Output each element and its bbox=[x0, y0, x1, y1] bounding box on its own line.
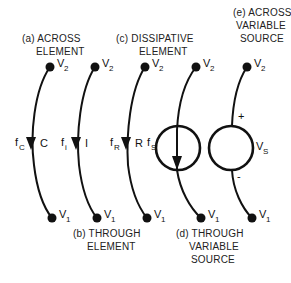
caption-a-line2: ELEMENT bbox=[36, 46, 85, 57]
caption-d-line1: (d) THROUGH bbox=[176, 228, 244, 239]
source-label-vs-sub: S bbox=[263, 147, 268, 156]
arrow-down-icon bbox=[71, 137, 81, 150]
element-e-across-source: (e) ACROSS VARIABLE SOURCE V 2 V 1 + - V… bbox=[209, 7, 291, 224]
minus-sign: - bbox=[237, 170, 241, 182]
arrow-down-icon bbox=[26, 137, 36, 150]
node-v1-a bbox=[48, 214, 57, 223]
plus-sign: + bbox=[238, 110, 244, 122]
caption-b-line2: ELEMENT bbox=[87, 241, 136, 252]
caption-d-line3: SOURCE bbox=[191, 254, 235, 265]
across-source-circle bbox=[209, 126, 253, 170]
element-label-i: I bbox=[85, 137, 88, 149]
arrow-down-icon bbox=[121, 137, 131, 150]
element-e-edge-bottom bbox=[232, 170, 252, 218]
caption-d-line2: VARIABLE bbox=[189, 241, 239, 252]
node-v2-c bbox=[141, 63, 150, 72]
node-v2-c-sub: 2 bbox=[159, 64, 164, 73]
flow-label-a-sub: C bbox=[19, 143, 25, 152]
node-v2-d-sub: 2 bbox=[210, 64, 215, 73]
node-v2-a-sub: 2 bbox=[64, 64, 69, 73]
caption-b-line1: (b) THROUGH bbox=[73, 228, 141, 239]
flow-label-b-sub: i bbox=[65, 143, 67, 152]
node-v2-e-sub: 2 bbox=[261, 64, 266, 73]
node-v1-c bbox=[143, 214, 152, 223]
caption-e-line2: VARIABLE bbox=[236, 20, 286, 31]
caption-e-line1: (e) ACROSS bbox=[233, 7, 291, 18]
caption-a-line1: (a) ACROSS bbox=[22, 33, 81, 44]
element-d-through-source: (d) THROUGH VARIABLE SOURCE V 2 V 1 f S bbox=[147, 57, 244, 265]
caption-c-line2: ELEMENT bbox=[139, 46, 188, 57]
element-a-across: (a) ACROSS ELEMENT V 2 V 1 f C C bbox=[15, 33, 85, 224]
node-v1-b-sub: 1 bbox=[111, 215, 116, 224]
element-label-c: C bbox=[40, 137, 48, 149]
arrow-down-icon bbox=[172, 156, 182, 170]
node-v1-c-sub: 1 bbox=[161, 215, 166, 224]
node-v1-b bbox=[93, 214, 102, 223]
node-v1-a-sub: 1 bbox=[66, 215, 71, 224]
node-v2-b-sub: 2 bbox=[109, 64, 114, 73]
node-v1-d bbox=[197, 214, 206, 223]
node-v2-d bbox=[192, 63, 201, 72]
node-v2-b bbox=[91, 63, 100, 72]
element-b-through: (b) THROUGH ELEMENT V 2 V 1 f i I bbox=[61, 57, 141, 252]
node-v1-d-sub: 1 bbox=[215, 215, 220, 224]
caption-e-line3: SOURCE bbox=[240, 33, 284, 44]
node-v2-e bbox=[243, 63, 252, 72]
caption-c-line1: (c) DISSIPATIVE bbox=[116, 33, 194, 44]
linear-graph-diagram: (a) ACROSS ELEMENT V 2 V 1 f C C (b) THR… bbox=[0, 0, 291, 283]
node-v1-e bbox=[248, 214, 257, 223]
element-d-edge bbox=[177, 67, 201, 218]
flow-label-d-sub: S bbox=[151, 143, 156, 152]
flow-label-c-sub: R bbox=[114, 143, 120, 152]
element-label-r: R bbox=[135, 137, 143, 149]
node-v2-a bbox=[46, 63, 55, 72]
element-c-dissipative: (c) DISSIPATIVE ELEMENT V 2 V 1 f R R bbox=[110, 33, 194, 224]
node-v1-e-sub: 1 bbox=[266, 215, 271, 224]
